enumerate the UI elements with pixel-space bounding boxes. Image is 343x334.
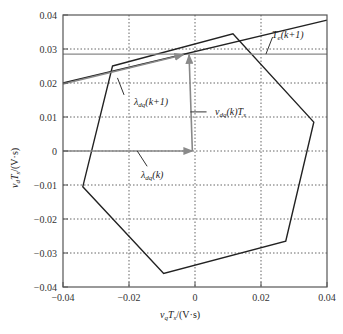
te-annotation: Te(k+1) xyxy=(272,29,304,42)
y-tick-label: 0.01 xyxy=(40,112,58,123)
y-tick-label: 0.02 xyxy=(40,78,58,89)
vector-arrow xyxy=(63,55,183,84)
y-tick-label: −0.03 xyxy=(34,248,57,259)
x-tick-label: 0.02 xyxy=(252,292,270,303)
vector-arrow xyxy=(189,55,192,151)
y-axis-label: vdTs/(V·s) xyxy=(9,148,22,188)
annotation-leader xyxy=(137,151,147,166)
y-tick-label: −0.01 xyxy=(34,180,57,191)
annotation-leader xyxy=(117,78,124,95)
x-axis-label: vqTs/(V·s) xyxy=(160,309,200,322)
x-tick-label: −0.04 xyxy=(51,292,74,303)
vdq-annotation: vdq(k)Ts xyxy=(215,106,246,119)
x-tick-label: −0.02 xyxy=(117,292,140,303)
chart: −0.04−0.0200.020.04−0.04−0.03−0.02−0.010… xyxy=(0,0,343,334)
y-tick-label: 0.03 xyxy=(40,44,58,55)
lambda-next-annotation: λdq(k+1) xyxy=(133,96,169,109)
x-tick-label: 0.04 xyxy=(318,292,336,303)
vector-arrows xyxy=(63,55,192,151)
lambda-now-annotation: λdq(k) xyxy=(140,169,164,182)
y-tick-label: −0.02 xyxy=(34,214,57,225)
x-tick-label: 0 xyxy=(193,292,198,303)
y-tick-label: 0.04 xyxy=(40,10,58,21)
y-tick-label: 0 xyxy=(52,146,57,157)
y-tick-label: −0.04 xyxy=(34,282,57,293)
